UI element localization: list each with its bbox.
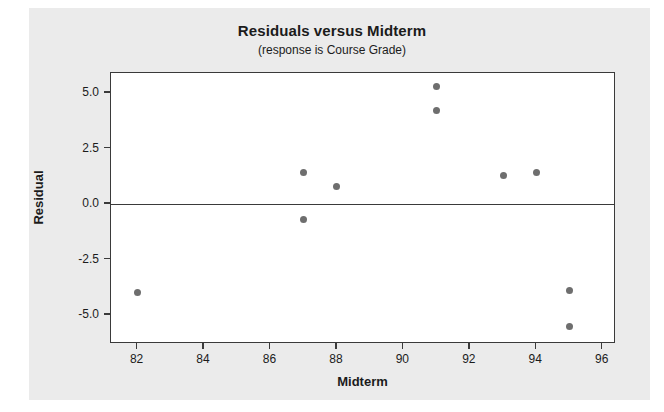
x-axis-tick	[269, 343, 270, 349]
x-axis-tick-label: 94	[529, 352, 542, 366]
y-axis-title: Residual	[31, 143, 46, 253]
y-axis-tick	[104, 258, 110, 259]
data-point	[433, 83, 440, 90]
x-axis-tick-label: 84	[196, 352, 209, 366]
x-axis-tick-label: 92	[462, 352, 475, 366]
x-axis-tick	[402, 343, 403, 349]
y-axis-tick	[104, 91, 110, 92]
y-axis-tick-label: 5.0	[82, 85, 99, 99]
x-axis-tick-label: 82	[130, 352, 143, 366]
data-point	[433, 107, 440, 114]
y-axis-tick	[104, 202, 110, 203]
chart-title: Residuals versus Midterm	[0, 22, 664, 39]
y-axis-tick-label: -2.5	[78, 252, 99, 266]
data-point	[500, 172, 507, 179]
y-axis-tick-labels: 5.02.50.0-2.5-5.0	[0, 0, 99, 412]
x-axis-tick	[136, 343, 137, 349]
x-axis-tick	[601, 343, 602, 349]
data-point	[566, 287, 573, 294]
data-point	[566, 323, 573, 330]
data-point	[300, 169, 307, 176]
zero-reference-line	[111, 204, 614, 205]
x-axis-tick-label: 90	[396, 352, 409, 366]
x-axis-tick-label: 88	[329, 352, 342, 366]
data-point	[533, 169, 540, 176]
y-axis-tick	[104, 313, 110, 314]
data-point	[300, 216, 307, 223]
y-axis-tick-label: 2.5	[82, 141, 99, 155]
y-axis-tick-label: -5.0	[78, 307, 99, 321]
x-axis-title: Midterm	[110, 374, 615, 389]
data-point	[134, 289, 141, 296]
x-axis-tick-label: 96	[595, 352, 608, 366]
y-axis-tick	[104, 147, 110, 148]
chart-subtitle: (response is Course Grade)	[0, 43, 664, 57]
residual-plot-screenshot: Residuals versus Midterm (response is Co…	[0, 0, 664, 412]
x-axis-tick	[535, 343, 536, 349]
plot-area	[111, 73, 614, 342]
x-axis-tick	[335, 343, 336, 349]
plot-frame	[110, 72, 615, 343]
x-axis-tick	[468, 343, 469, 349]
x-axis-tick	[202, 343, 203, 349]
x-axis-tick-label: 86	[263, 352, 276, 366]
y-axis-tick-label: 0.0	[82, 196, 99, 210]
data-point	[333, 183, 340, 190]
